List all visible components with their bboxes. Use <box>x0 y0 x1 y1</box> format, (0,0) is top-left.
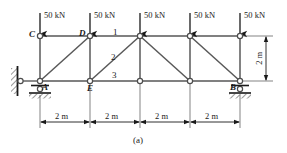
support-wall-left <box>11 66 38 96</box>
dim-arrow-1-right <box>84 120 90 124</box>
node-B <box>237 78 242 83</box>
member-label-2: 2 <box>111 53 116 62</box>
node-C <box>37 33 42 38</box>
node-I <box>137 78 142 83</box>
node-G <box>187 33 192 38</box>
dim-arrow-vert-bottom <box>264 75 268 81</box>
dim-label-span-4: 2 m <box>205 112 218 121</box>
node-F <box>137 33 142 38</box>
member-diagonal-G-B <box>190 36 240 81</box>
node-label-C: C <box>29 30 35 39</box>
dim-label-span-3: 2 m <box>155 112 168 121</box>
wall-link-pin <box>18 78 23 83</box>
member-label-1: 1 <box>113 28 118 37</box>
member-diagonal-F-J <box>140 36 190 81</box>
member-label-3: 3 <box>112 71 117 80</box>
figure-caption: (a) <box>133 136 143 145</box>
node-D <box>87 33 92 38</box>
node-label-A: A <box>42 83 48 92</box>
load-label-C: 50 kN <box>44 11 65 20</box>
node-H <box>237 33 242 38</box>
dim-label-span-2: 2 m <box>105 112 118 121</box>
node-label-E: E <box>87 84 93 93</box>
dim-arrow-vert-top <box>264 36 268 42</box>
dim-label-height: 2 m <box>255 48 264 68</box>
dim-label-span-1: 2 m <box>55 112 68 121</box>
node-label-B: B <box>230 83 236 92</box>
load-label-D: 50 kN <box>94 11 115 20</box>
dim-arrow-2-right <box>134 120 140 124</box>
truss-members <box>40 36 240 81</box>
horizontal-dimension-group <box>40 84 240 128</box>
truss-figure-container: 50 kN 50 kN 50 kN 50 kN 50 kN C D A E B … <box>0 0 287 153</box>
node-J <box>187 78 192 83</box>
load-label-H: 50 kN <box>244 11 265 20</box>
member-diagonal-A-D <box>40 36 90 81</box>
dim-arrow-3-right <box>184 120 190 124</box>
dim-arrow-1-left <box>40 120 46 124</box>
load-label-F: 50 kN <box>144 11 165 20</box>
wall-hatch-area <box>11 68 17 94</box>
node-label-D: D <box>79 29 86 38</box>
dim-arrow-4-left <box>190 120 196 124</box>
dim-arrow-3-left <box>140 120 146 124</box>
roller-circle-B <box>237 86 242 91</box>
load-label-G: 50 kN <box>194 11 215 20</box>
dim-arrow-4-right <box>234 120 240 124</box>
truss-diagram-svg <box>0 0 287 153</box>
dim-arrow-2-left <box>90 120 96 124</box>
